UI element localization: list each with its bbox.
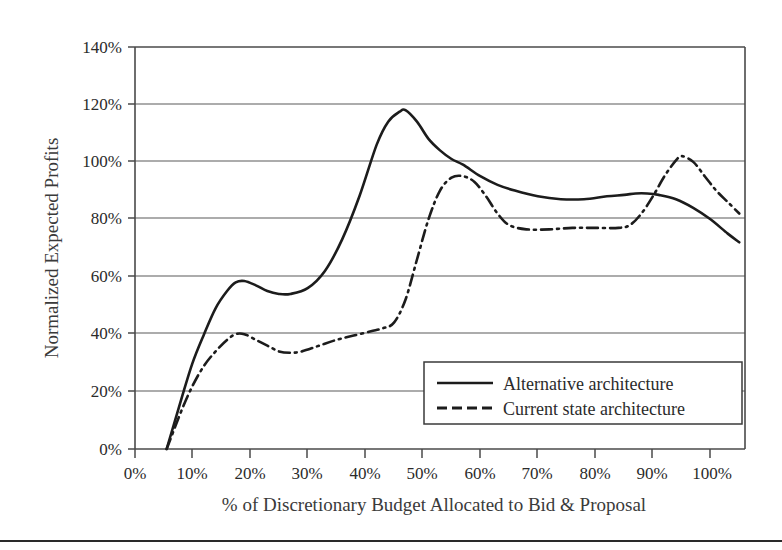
- x-tick-label-50: 50%: [406, 464, 437, 483]
- y-tick-label-120: 120%: [82, 95, 122, 114]
- y-tick-label-40: 40%: [91, 324, 122, 343]
- x-tick-label-60: 60%: [464, 464, 495, 483]
- y-tick-label-140: 140%: [82, 38, 122, 57]
- x-tick-label-40: 40%: [349, 464, 380, 483]
- x-tick-label-0: 0%: [124, 464, 147, 483]
- y-tick-label-0: 0%: [99, 440, 122, 459]
- legend-label-alternative: Alternative architecture: [503, 374, 673, 394]
- x-tick-label-10: 10%: [176, 464, 207, 483]
- x-tick-label-90: 90%: [636, 464, 667, 483]
- line-chart: 140% 120% 100% 80% 60% 40% 20% 0% 0%: [0, 0, 782, 550]
- y-axis-title: Normalized Expected Profits: [41, 138, 62, 359]
- x-tick-label-80: 80%: [579, 464, 610, 483]
- legend: Alternative architecture Current state a…: [424, 362, 742, 424]
- legend-label-current-state: Current state architecture: [503, 399, 685, 419]
- x-tick-label-70: 70%: [521, 464, 552, 483]
- x-tick-label-20: 20%: [234, 464, 265, 483]
- y-tick-label-60: 60%: [91, 267, 122, 286]
- x-tick-label-100: 100%: [692, 464, 732, 483]
- x-tick-label-30: 30%: [291, 464, 322, 483]
- y-tick-label-20: 20%: [91, 382, 122, 401]
- y-tick-label-80: 80%: [91, 209, 122, 228]
- y-tick-label-100: 100%: [82, 152, 122, 171]
- chart-figure: 140% 120% 100% 80% 60% 40% 20% 0% 0%: [0, 0, 782, 550]
- x-axis-title: % of Discretionary Budget Allocated to B…: [222, 494, 646, 515]
